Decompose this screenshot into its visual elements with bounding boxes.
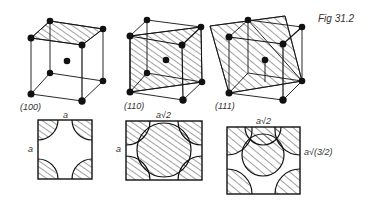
section-100-height-label: a <box>28 144 33 154</box>
cube-label-100: (100) <box>20 102 41 112</box>
cube-110 <box>127 17 206 104</box>
cube-111 <box>210 16 305 104</box>
crystal-planes-diagram: Fig 31.2 (100) <box>0 0 376 207</box>
section-111-height-label: a√(3/2) <box>304 147 332 157</box>
section-111-width-label: a√2 <box>256 116 271 126</box>
cube-label-111: (111) <box>215 101 235 111</box>
figure-caption: Fig 31.2 <box>318 13 355 24</box>
cube-label-110: (110) <box>124 101 144 111</box>
section-100-width-label: a <box>63 110 68 120</box>
cube-100 <box>28 18 107 105</box>
shaded-plane-100 <box>31 21 103 45</box>
section-110-height-label: a <box>116 144 121 154</box>
section-110-width-label: a√2 <box>156 110 171 120</box>
